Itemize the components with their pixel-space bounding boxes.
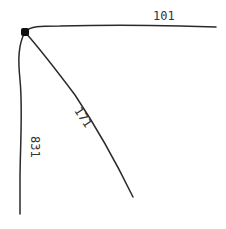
edge-label-down: 831: [29, 136, 41, 158]
diagram-canvas: 101 171 831: [0, 0, 226, 229]
edge-right: [25, 25, 216, 32]
root-node[interactable]: [21, 28, 29, 36]
edge-down: [19, 32, 25, 214]
edge-label-right: 101: [153, 10, 175, 22]
diagram-svg: [0, 0, 226, 229]
